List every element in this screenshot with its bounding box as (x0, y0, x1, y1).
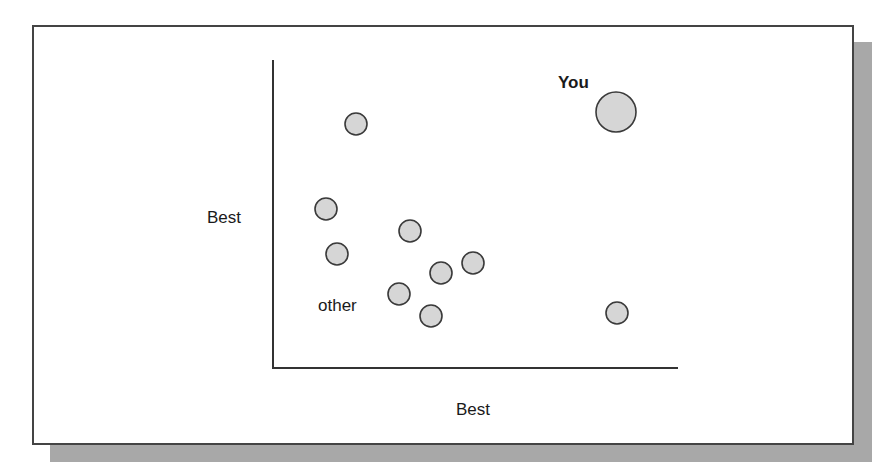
y-axis-label: Best (207, 208, 241, 228)
other-marker (462, 252, 484, 274)
other-label: other (318, 296, 357, 316)
other-marker (388, 283, 410, 305)
markers (315, 92, 636, 327)
scatter-plot (0, 0, 891, 475)
other-marker (345, 113, 367, 135)
other-marker (420, 305, 442, 327)
you-marker (596, 92, 636, 132)
other-marker (430, 262, 452, 284)
x-axis-label: Best (456, 400, 490, 420)
other-marker (399, 220, 421, 242)
other-marker (606, 302, 628, 324)
you-label: You (558, 73, 589, 93)
other-marker (326, 243, 348, 265)
other-marker (315, 198, 337, 220)
